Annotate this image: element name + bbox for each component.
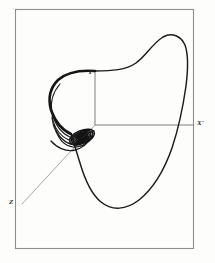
y-axis-label: Y' [88, 69, 94, 76]
trajectory-outer-loop [71, 35, 188, 208]
z-axis-label: Z [9, 199, 13, 206]
plate-border [16, 10, 194, 249]
figure-container: Y' X' Z [0, 0, 215, 263]
phase-plot-svg [0, 0, 215, 263]
x-axis-label: X' [197, 120, 204, 127]
